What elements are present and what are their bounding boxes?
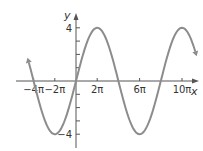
y-tick-label: 4 xyxy=(66,23,72,34)
x-axis-arrow-icon xyxy=(192,79,199,84)
x-axis-label: x xyxy=(190,85,198,98)
x-tick-label: 6π xyxy=(133,84,145,95)
x-axis xyxy=(16,79,199,84)
y-axis-label: y xyxy=(63,9,71,22)
x-tick-label: −4π xyxy=(23,84,44,95)
x-tick-label: 10π xyxy=(173,84,192,95)
y-axis-arrow-icon xyxy=(74,13,79,20)
x-tick-label: 2π xyxy=(91,84,103,95)
curve-left-arrow-icon xyxy=(26,58,32,64)
x-tick-label: −2π xyxy=(44,84,65,95)
sine-chart: −4π−2π2π6π10π4−4 x y xyxy=(0,0,203,151)
